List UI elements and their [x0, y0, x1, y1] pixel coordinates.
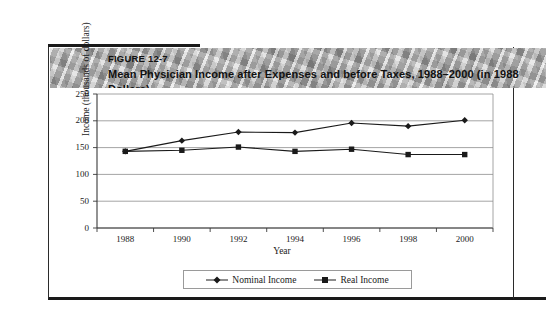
y-tick-label: 150	[55, 143, 89, 152]
x-tick-label: 1990	[160, 234, 204, 244]
legend-label-real-income: Real Income	[340, 275, 388, 285]
x-tick-label: 1996	[330, 234, 374, 244]
figure-title: Mean Physician Income after Expenses and…	[108, 67, 546, 88]
series-line-nominal-income	[125, 120, 464, 151]
y-tick-label: 250	[55, 90, 89, 99]
y-tick-label: 200	[55, 116, 89, 125]
data-point-diamond	[292, 129, 298, 135]
x-tick-label: 1998	[386, 234, 430, 244]
y-tick-label: 100	[55, 170, 89, 179]
data-point-square	[349, 147, 354, 152]
square-marker-icon	[314, 275, 336, 285]
data-point-square	[123, 149, 128, 154]
data-point-diamond	[462, 117, 468, 123]
x-tick-label: 1994	[273, 234, 317, 244]
chart-svg	[50, 88, 514, 296]
legend-label-nominal-income: Nominal Income	[232, 275, 296, 285]
data-point-diamond	[179, 137, 185, 143]
chart-legend: Nominal Income Real Income	[183, 270, 412, 289]
diamond-marker-icon	[206, 275, 228, 285]
chart-plot-area: Income (thousands of dollars) Year 05010…	[50, 88, 514, 296]
y-tick-label: 0	[55, 224, 89, 233]
data-point-square	[179, 148, 184, 153]
x-tick-label: 2000	[443, 234, 487, 244]
legend-item-real-income: Real Income	[314, 275, 388, 285]
y-tick-label: 50	[55, 197, 89, 206]
data-point-diamond	[405, 123, 411, 129]
data-point-diamond	[235, 129, 241, 135]
figure-number: FIGURE 12-7	[108, 52, 546, 65]
figure-bottom-rule-extension	[514, 297, 546, 300]
data-point-square	[462, 152, 467, 157]
legend-item-nominal-income: Nominal Income	[206, 275, 296, 285]
data-point-square	[292, 149, 297, 154]
data-point-square	[236, 144, 241, 149]
figure-header-text: FIGURE 12-7 Mean Physician Income after …	[50, 48, 546, 88]
x-tick-label: 1992	[216, 234, 260, 244]
data-point-square	[405, 152, 410, 157]
figure-header-banner: FIGURE 12-7 Mean Physician Income after …	[50, 48, 546, 88]
x-tick-label: 1988	[103, 234, 147, 244]
figure-screenshot: FIGURE 12-7 Mean Physician Income after …	[0, 0, 546, 323]
